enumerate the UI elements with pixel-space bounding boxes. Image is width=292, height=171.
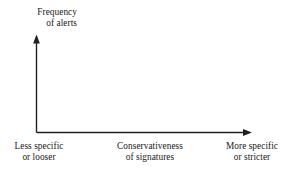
x-axis-right-label: More specific or stricter <box>216 141 288 162</box>
x-axis-right-label-line-2: or stricter <box>216 152 288 163</box>
x-axis-left-label: Less specific or looser <box>4 141 74 162</box>
x-axis-title-line-2: of signatures <box>106 152 194 163</box>
x-axis-arrowhead-icon <box>243 129 252 136</box>
x-axis-title: Conservativeness of signatures <box>106 141 194 162</box>
conceptual-axes-figure: Frequency of alerts Less specific or loo… <box>0 0 292 171</box>
y-axis-title: Frequency of alerts <box>0 7 77 28</box>
x-axis-title-line-1: Conservativeness <box>106 141 194 152</box>
y-axis-title-line-2: of alerts <box>0 18 77 29</box>
y-axis-title-line-1: Frequency <box>0 7 77 18</box>
y-axis-arrowhead-icon <box>33 35 40 44</box>
x-axis-left-label-line-1: Less specific <box>4 141 74 152</box>
x-axis-left-label-line-2: or looser <box>4 152 74 163</box>
x-axis-right-label-line-1: More specific <box>216 141 288 152</box>
